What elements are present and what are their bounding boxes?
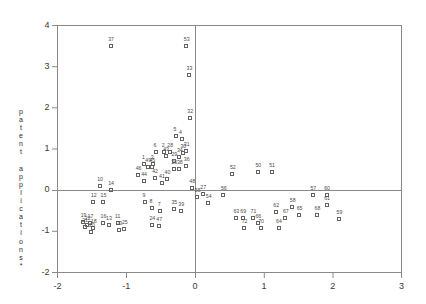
data-point-label: 43	[163, 147, 169, 152]
data-point-marker	[221, 193, 225, 197]
y-tick-label: 2	[28, 102, 50, 112]
data-point-label: 36	[184, 157, 190, 162]
data-point-label: 47	[156, 217, 162, 222]
data-point-marker	[234, 216, 238, 220]
data-point-marker	[206, 201, 210, 205]
x-tick-label: -1	[116, 281, 136, 291]
data-point-label: 33	[187, 66, 193, 71]
data-point-marker	[117, 228, 121, 232]
data-point-marker	[150, 206, 154, 210]
data-point-label: 55	[195, 188, 201, 193]
data-point-marker	[251, 216, 255, 220]
data-point-marker	[164, 154, 168, 158]
data-point-label: 31	[184, 142, 190, 147]
data-point-marker	[172, 207, 176, 211]
data-point-label: 60	[324, 186, 330, 191]
plot-data-area: 1234567891011121314151617181920212223242…	[57, 25, 402, 273]
data-point-marker	[160, 181, 164, 185]
data-point-marker	[109, 44, 113, 48]
data-point-marker	[154, 150, 158, 154]
data-point-marker	[283, 216, 287, 220]
data-point-marker	[256, 170, 260, 174]
data-point-marker	[315, 213, 319, 217]
data-point-marker	[101, 221, 105, 225]
data-point-label: 39	[178, 202, 184, 207]
data-point-marker	[150, 223, 154, 227]
data-point-marker	[274, 210, 278, 214]
data-point-marker	[165, 177, 169, 181]
data-point-label: 65	[297, 206, 303, 211]
data-point-label: 49	[145, 158, 151, 163]
data-point-marker	[172, 159, 176, 163]
data-point-label: 48	[189, 179, 195, 184]
data-point-marker	[109, 188, 113, 192]
data-point-marker	[146, 165, 150, 169]
data-point-label: 38	[177, 160, 183, 165]
data-point-marker	[85, 223, 89, 227]
data-point-label: 46	[136, 166, 142, 171]
data-point-marker	[195, 195, 199, 199]
data-point-label: 58	[290, 198, 296, 203]
x-tick-label: -2	[48, 281, 68, 291]
data-point-marker	[107, 223, 111, 227]
data-point-marker	[184, 149, 188, 153]
data-point-label: 42	[152, 169, 158, 174]
data-point-marker	[184, 44, 188, 48]
data-point-label: 53	[184, 37, 190, 42]
x-tick-label: 1	[254, 281, 274, 291]
data-point-marker	[172, 167, 176, 171]
data-point-label: 16	[101, 214, 107, 219]
data-point-label: 54	[206, 194, 212, 199]
data-point-label: 10	[97, 177, 103, 182]
data-point-label: 69	[240, 209, 246, 214]
data-point-marker	[157, 224, 161, 228]
data-point-label: 67	[283, 209, 289, 214]
data-point-marker	[150, 165, 154, 169]
data-point-label: 64	[276, 219, 282, 224]
data-point-marker	[277, 226, 281, 230]
data-point-marker	[325, 203, 329, 207]
data-point-marker	[290, 205, 294, 209]
data-point-label: 61	[324, 196, 330, 201]
data-point-label: 59	[337, 210, 343, 215]
data-point-label: 62	[273, 203, 279, 208]
data-point-marker	[98, 184, 102, 188]
data-point-marker	[201, 192, 205, 196]
data-point-marker	[242, 226, 246, 230]
data-point-label: 8	[149, 199, 152, 204]
data-point-marker	[153, 176, 157, 180]
data-point-label: 22	[85, 216, 91, 221]
y-tick-label: 1	[28, 143, 50, 153]
y-axis-title: p a t e n t a p p l i c a t i o n s *	[14, 108, 28, 270]
x-tick-label: 2	[323, 281, 343, 291]
data-point-marker	[190, 186, 194, 190]
data-point-label: 37	[108, 37, 114, 42]
data-point-label: 32	[187, 109, 193, 114]
y-tick-label: 3	[28, 61, 50, 71]
data-point-marker	[297, 213, 301, 217]
data-point-marker	[142, 179, 146, 183]
data-point-label: 40	[165, 170, 171, 175]
data-point-marker	[337, 217, 341, 221]
data-point-label: 6	[154, 143, 157, 148]
data-point-marker	[143, 200, 147, 204]
data-point-label: 5	[174, 127, 177, 132]
data-point-marker	[158, 209, 162, 213]
data-point-label: 13	[106, 216, 112, 221]
x-tick-label: 3	[392, 281, 412, 291]
data-point-marker	[177, 167, 181, 171]
data-point-label: 72	[242, 219, 248, 224]
data-point-label: 4	[179, 130, 182, 135]
data-point-label: 68	[315, 206, 321, 211]
data-point-marker	[179, 209, 183, 213]
data-point-label: 7	[158, 202, 161, 207]
data-point-marker	[184, 164, 188, 168]
data-point-marker	[311, 193, 315, 197]
data-point-label: 9	[143, 193, 146, 198]
y-tick-label: -1	[28, 225, 50, 235]
y-tick-label: 0	[28, 184, 50, 194]
data-point-label: 52	[230, 165, 236, 170]
y-tick-label: 4	[28, 20, 50, 30]
data-point-label: 57	[310, 186, 316, 191]
data-point-label: 41	[159, 174, 165, 179]
